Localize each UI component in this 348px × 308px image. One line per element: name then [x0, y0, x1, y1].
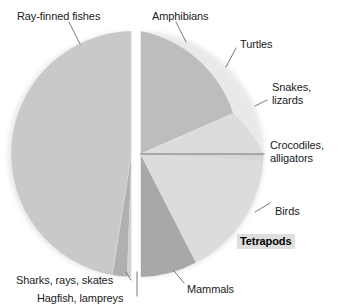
leader-birds [255, 203, 270, 212]
label-turtles: Turtles [240, 38, 273, 51]
left-half-slices [11, 31, 131, 277]
label-birds: Birds [275, 205, 300, 218]
label-tetrapods: Tetrapods [237, 234, 295, 249]
label-crocodiles-alligators: Crocodiles, alligators [270, 139, 324, 164]
label-mammals: Mammals [187, 283, 234, 296]
label-hagfish-lampreys: Hagfish, lampreys [37, 292, 123, 305]
exploded-gap [132, 26, 141, 282]
slice-ray-finned-fishes [11, 31, 131, 275]
leader-mammals [174, 271, 184, 283]
label-amphibians: Amphibians [152, 10, 208, 23]
leader-turtles [226, 48, 236, 67]
leader-ray-finned-fishes [69, 22, 80, 44]
label-sharks-rays-skates: Sharks, rays, skates [16, 274, 113, 287]
label-snakes-lizards: Snakes, lizards [272, 81, 311, 106]
label-ray-finned-fishes: Ray-finned fishes [17, 10, 100, 23]
leader-snakes-lizards [255, 100, 267, 106]
pie-chart-figure: Ray-finned fishes Amphibians Turtles Sna… [0, 0, 348, 308]
